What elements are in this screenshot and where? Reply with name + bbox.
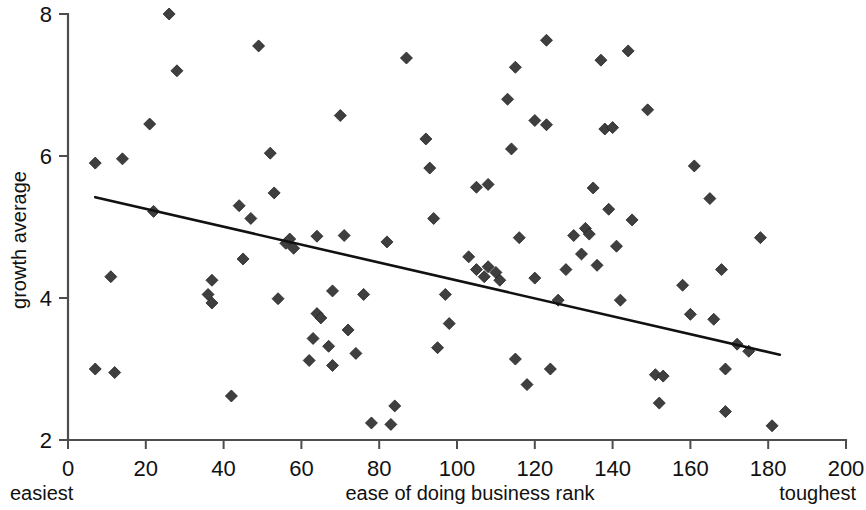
data-point — [509, 353, 521, 365]
data-point — [653, 397, 665, 409]
plot-area: 2468020406080100120140160180200 growth a… — [0, 0, 866, 510]
data-point — [677, 279, 689, 291]
x-tick-label: 120 — [516, 456, 553, 481]
axes-group — [59, 14, 846, 449]
data-point — [171, 65, 183, 77]
data-point — [614, 294, 626, 306]
data-point — [365, 417, 377, 429]
y-tick-label: 4 — [40, 286, 52, 311]
data-point — [89, 157, 101, 169]
data-point — [603, 203, 615, 215]
x-axis-title: ease of doing business rank — [345, 482, 595, 504]
y-tick-label: 2 — [40, 428, 52, 453]
data-point — [716, 264, 728, 276]
data-point — [443, 318, 455, 330]
y-axis-title: growth average — [8, 171, 30, 309]
axis-lines — [68, 14, 846, 440]
scatter-chart: 2468020406080100120140160180200 growth a… — [0, 0, 866, 510]
data-point — [105, 271, 117, 283]
data-point — [264, 147, 276, 159]
data-point — [206, 274, 218, 286]
data-point — [513, 232, 525, 244]
data-point — [529, 115, 541, 127]
data-point — [432, 342, 444, 354]
data-point — [505, 143, 517, 155]
data-point — [587, 182, 599, 194]
data-point — [591, 259, 603, 271]
data-point — [323, 340, 335, 352]
data-point — [502, 93, 514, 105]
data-point — [622, 45, 634, 57]
data-point — [470, 181, 482, 193]
data-point — [482, 178, 494, 190]
data-point — [610, 240, 622, 252]
data-point — [268, 187, 280, 199]
x-tick-label: 0 — [62, 456, 74, 481]
x-tick-label: 80 — [367, 456, 391, 481]
x-tick-label: 20 — [134, 456, 158, 481]
data-point — [237, 253, 249, 265]
data-point — [327, 359, 339, 371]
data-point — [389, 400, 401, 412]
data-point — [253, 40, 265, 52]
data-point — [509, 61, 521, 73]
y-tick-label: 6 — [40, 144, 52, 169]
data-point — [428, 212, 440, 224]
data-point — [626, 214, 638, 226]
x-tick-label: 140 — [594, 456, 631, 481]
axis-labels-group: 2468020406080100120140160180200 — [40, 2, 865, 481]
data-point — [420, 133, 432, 145]
x-tick-label: 200 — [828, 456, 865, 481]
data-point — [544, 363, 556, 375]
data-point — [245, 212, 257, 224]
x-tick-label: 160 — [672, 456, 709, 481]
data-point — [303, 354, 315, 366]
x-tick-label: 180 — [750, 456, 787, 481]
data-point — [338, 230, 350, 242]
data-point — [385, 418, 397, 430]
data-point — [708, 313, 720, 325]
data-point — [754, 232, 766, 244]
x-tick-label: 60 — [289, 456, 313, 481]
data-point — [89, 363, 101, 375]
data-point — [463, 251, 475, 263]
data-point — [540, 34, 552, 46]
toughest-label: toughest — [779, 482, 856, 504]
data-point — [381, 236, 393, 248]
y-tick-label: 8 — [40, 2, 52, 27]
data-point — [311, 230, 323, 242]
data-point — [575, 248, 587, 260]
data-point — [642, 104, 654, 116]
data-point — [424, 162, 436, 174]
data-point — [225, 390, 237, 402]
data-point — [568, 230, 580, 242]
data-point — [688, 160, 700, 172]
easiest-label: easiest — [10, 482, 74, 504]
data-point — [334, 110, 346, 122]
data-point — [327, 285, 339, 297]
data-point — [719, 363, 731, 375]
data-point — [766, 420, 778, 432]
data-point — [719, 406, 731, 418]
data-point — [439, 288, 451, 300]
x-tick-label: 40 — [211, 456, 235, 481]
data-point — [342, 324, 354, 336]
data-point — [400, 52, 412, 64]
data-point — [358, 288, 370, 300]
data-point — [521, 379, 533, 391]
x-tick-label: 100 — [439, 456, 476, 481]
data-point — [163, 8, 175, 20]
data-point — [144, 118, 156, 130]
data-point — [233, 200, 245, 212]
data-point — [307, 332, 319, 344]
data-point — [560, 264, 572, 276]
data-point — [595, 54, 607, 66]
data-point — [529, 272, 541, 284]
data-point — [540, 119, 552, 131]
data-point — [116, 153, 128, 165]
data-point — [272, 293, 284, 305]
data-point — [109, 367, 121, 379]
data-point — [350, 347, 362, 359]
data-point — [684, 308, 696, 320]
data-point — [704, 193, 716, 205]
